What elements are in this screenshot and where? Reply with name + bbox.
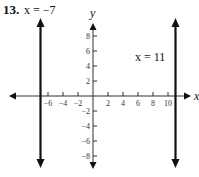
y-axis-down-arrow-icon: [90, 162, 97, 169]
y-axis-up-arrow-icon: [90, 23, 97, 30]
x-tick-label: 8: [151, 99, 155, 108]
x-axis-label: x: [193, 89, 199, 103]
line-up-arrow-icon: [37, 18, 45, 27]
y-tick-label: 4: [86, 62, 90, 71]
y-tick-label: 2: [86, 77, 90, 86]
x-tick-label: 6: [136, 99, 140, 108]
x-tick-label: 4: [121, 99, 125, 108]
y-tick-label: 6: [86, 47, 90, 56]
line-up-arrow-icon: [172, 18, 180, 27]
line-down-arrow-icon: [172, 159, 180, 168]
x-axis-left-arrow-icon: [9, 93, 16, 100]
x-axis-right-arrow-icon: [184, 93, 191, 100]
x-tick-label: −4: [59, 99, 68, 108]
x-tick-label: 10: [164, 99, 172, 108]
y-axis-label: y: [89, 6, 96, 20]
x-tick-label: −6: [44, 99, 53, 108]
y-tick-label: −4: [81, 122, 90, 131]
y-tick-label: −6: [81, 137, 90, 146]
line-down-arrow-icon: [37, 159, 45, 168]
y-tick-label: −8: [81, 152, 90, 161]
y-tick-label: 8: [86, 32, 90, 41]
y-tick-label: −2: [81, 107, 90, 116]
coordinate-plane: xy−6−4−22468108642−2−4−6−8: [0, 0, 199, 177]
x-tick-label: 2: [106, 99, 110, 108]
